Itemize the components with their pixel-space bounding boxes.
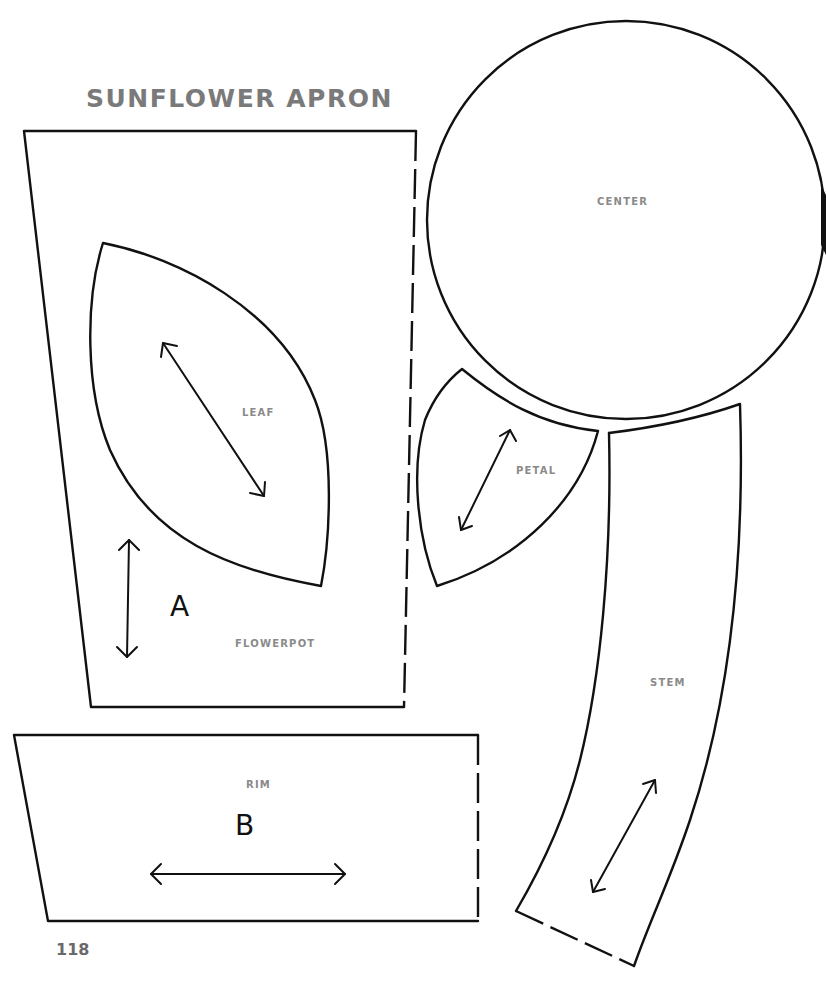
- petal-grainline-icon: [459, 430, 516, 530]
- flowerpot-label: FLOWERPOT: [235, 638, 315, 649]
- stem-grainline-icon: [591, 780, 656, 892]
- leaf-grainline-icon: [161, 343, 265, 496]
- flowerpot-letter: A: [170, 590, 189, 623]
- page-title: SUNFLOWER APRON: [86, 84, 393, 113]
- stem-label: STEM: [650, 677, 686, 688]
- leaf-label: LEAF: [242, 407, 275, 418]
- leaf-piece: [90, 243, 329, 586]
- center-label: CENTER: [597, 196, 648, 207]
- rim-letter: B: [235, 809, 254, 842]
- flowerpot-fold-line: [404, 131, 416, 707]
- petal-label: PETAL: [516, 465, 556, 476]
- stem-piece: [516, 404, 741, 966]
- rim-grainline-icon: [151, 864, 345, 884]
- flowerpot-piece: [24, 131, 416, 707]
- stem-fold-line: [516, 911, 634, 966]
- clipped-edge-mark: [821, 185, 826, 255]
- pattern-sheet: [0, 0, 826, 997]
- flowerpot-grainline-icon: [117, 540, 139, 657]
- page-number: 118: [56, 940, 89, 959]
- rim-label: RIM: [246, 779, 271, 790]
- petal-piece: [417, 369, 598, 586]
- center-piece: [427, 21, 826, 419]
